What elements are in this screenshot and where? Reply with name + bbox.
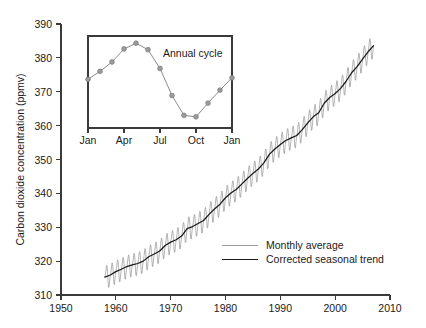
x-tick-label: 1950 — [49, 302, 73, 314]
inset-data-point — [134, 41, 139, 46]
y-tick-label: 320 — [34, 255, 52, 267]
y-axis-title: Carbon dioxide concentration (ppmv) — [14, 73, 26, 245]
y-tick-label: 310 — [34, 289, 52, 301]
x-tick-label: 1970 — [159, 302, 183, 314]
inset-data-point — [194, 114, 199, 119]
x-tick-label: 2010 — [378, 302, 402, 314]
inset-x-tick-label: Jan — [80, 134, 97, 146]
x-tick-label: 1960 — [104, 302, 128, 314]
legend-label-corrected-seasonal-trend: Corrected seasonal trend — [266, 253, 384, 265]
inset-data-point — [230, 75, 235, 80]
y-tick-label: 380 — [34, 52, 52, 64]
y-tick-label: 370 — [34, 86, 52, 98]
inset-data-point — [122, 47, 127, 52]
inset-data-point — [98, 69, 103, 74]
x-tick-label: 2000 — [324, 302, 348, 314]
inset-data-point — [158, 66, 163, 71]
y-tick-label: 350 — [34, 154, 52, 166]
inset-data-point — [146, 47, 151, 52]
inset-data-point — [182, 113, 187, 118]
inset-data-point — [110, 60, 115, 65]
inset-x-tick-label: Jul — [153, 134, 166, 146]
chart-canvas: 390 380 370 360 350 340 330 320 310 1950… — [0, 0, 426, 328]
inset-title: Annual cycle — [163, 47, 223, 59]
x-tick-label: 1990 — [269, 302, 293, 314]
inset-x-tick-label: Apr — [116, 134, 133, 146]
y-axis-tick-labels: 390 380 370 360 350 340 330 320 310 — [34, 18, 52, 301]
inset-data-point — [170, 93, 175, 98]
inset-data-point — [218, 88, 223, 93]
x-tick-label: 1980 — [214, 302, 238, 314]
y-tick-label: 330 — [34, 221, 52, 233]
inset-data-point — [206, 101, 211, 106]
legend-label-monthly-average: Monthly average — [266, 239, 344, 251]
y-tick-label: 340 — [34, 187, 52, 199]
co2-chart-figure: 390 380 370 360 350 340 330 320 310 1950… — [0, 0, 426, 328]
inset-x-tick-label: Oct — [188, 134, 204, 146]
inset-x-tick-label: Jan — [224, 134, 241, 146]
inset-data-point — [86, 77, 91, 82]
y-tick-label: 360 — [34, 120, 52, 132]
y-tick-label: 390 — [34, 18, 52, 30]
